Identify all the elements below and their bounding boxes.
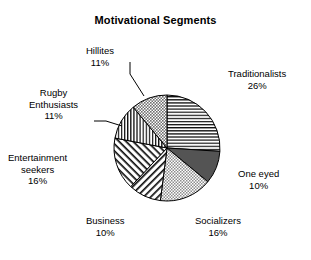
pie-chart-graphic — [0, 0, 311, 260]
pie-label-entertainment-seekers-line1: Entertainment — [8, 152, 67, 164]
leader-line-hillites — [130, 62, 144, 96]
pie-label-business-name: Business — [86, 215, 125, 227]
pie-slices-group — [114, 95, 220, 201]
pie-label-business: Business 10% — [86, 215, 125, 238]
pie-label-entertainment-seekers: Entertainment seekers 16% — [8, 152, 67, 187]
pie-label-socializers-name: Socializers — [195, 215, 241, 227]
pie-label-business-percent: 10% — [86, 227, 125, 239]
pie-chart-figure: Motivational Segments — [0, 0, 311, 260]
leader-line-rugby — [94, 121, 122, 126]
pie-label-traditionalists-name: Traditionalists — [228, 68, 286, 80]
pie-label-entertainment-seekers-percent: 16% — [8, 175, 67, 187]
pie-label-one-eyed: One eyed 10% — [238, 168, 279, 191]
pie-label-rugby-enthusiasts: Rugby Enthusiasts 11% — [29, 87, 78, 122]
pie-label-socializers-percent: 16% — [195, 227, 241, 239]
pie-label-one-eyed-name: One eyed — [238, 168, 279, 180]
pie-label-rugby-enthusiasts-percent: 11% — [29, 110, 78, 122]
pie-label-entertainment-seekers-line2: seekers — [8, 164, 67, 176]
pie-slice-traditionalists — [167, 95, 220, 151]
pie-label-traditionalists: Traditionalists 26% — [228, 68, 286, 91]
pie-label-socializers: Socializers 16% — [195, 215, 241, 238]
pie-label-hillites-percent: 11% — [86, 57, 114, 69]
pie-label-hillites-name: Hillites — [86, 45, 114, 57]
pie-label-rugby-enthusiasts-line2: Enthusiasts — [29, 99, 78, 111]
pie-label-one-eyed-percent: 10% — [238, 180, 279, 192]
pie-label-traditionalists-percent: 26% — [228, 80, 286, 92]
pie-label-rugby-enthusiasts-line1: Rugby — [29, 87, 78, 99]
pie-label-hillites: Hillites 11% — [86, 45, 114, 68]
